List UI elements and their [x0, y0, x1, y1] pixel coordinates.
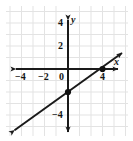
point-y-intercept	[65, 89, 71, 95]
x-tick-label-pos4: 4	[100, 72, 105, 82]
x-axis-label: x	[114, 57, 119, 67]
y-tick-label-neg4: −4	[52, 110, 63, 120]
x-tick-label-neg4: −4	[15, 72, 26, 82]
coordinate-plane-figure: −4 −2 0 4 4 2 −4 y x	[0, 0, 133, 141]
y-tick-label-pos2: 2	[58, 41, 63, 51]
origin-label: 0	[59, 72, 64, 82]
y-tick-label-pos4: 4	[58, 18, 63, 28]
x-tick-label-neg2: −2	[38, 72, 49, 82]
y-axis-label: y	[71, 15, 75, 25]
